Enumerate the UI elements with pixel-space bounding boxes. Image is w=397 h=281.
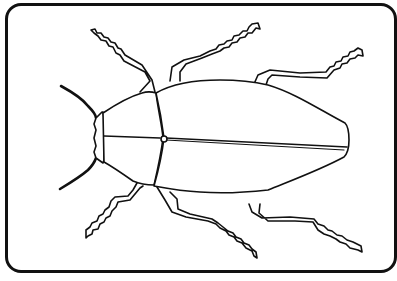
elytra: [154, 80, 349, 193]
leg-mid-top: [170, 23, 260, 81]
scutellum: [161, 136, 167, 142]
leg-rear-bottom: [249, 204, 362, 252]
leg-rear-top: [254, 48, 363, 85]
leg-front-top: [91, 29, 155, 92]
antenna-top: [61, 86, 96, 118]
leg-front-bottom: [86, 183, 143, 238]
leg-mid-bottom: [157, 187, 257, 258]
antenna-bottom: [60, 158, 96, 189]
